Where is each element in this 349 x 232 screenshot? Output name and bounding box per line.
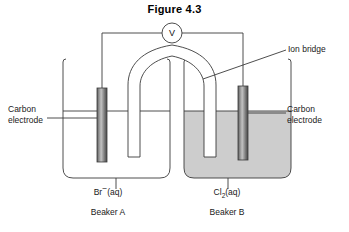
voltmeter-symbol: V [162,28,182,38]
label-solution-a: Br−(aq) [78,187,138,198]
label-carbon-electrode-left-line2: electrode [8,115,43,126]
label-carbon-electrode-right-line1: Carbon [287,104,322,115]
carbon-electrode-right-bar [238,86,248,160]
label-carbon-electrode-left-line1: Carbon [8,104,43,115]
beaker-a [63,59,170,178]
carbon-electrode-left [97,88,107,162]
beaker-a-wall [63,59,170,178]
label-carbon-electrode-left: Carbon electrode [8,104,43,126]
beaker-b [184,59,291,178]
label-carbon-electrode-right: Carbon electrode [287,104,322,126]
leader-ion-bridge [203,50,286,79]
carbon-electrode-left-bar [97,88,107,162]
solution-a-state: (aq) [107,187,122,197]
label-beaker-b: Beaker B [193,207,261,218]
figure-container: Figure 4.3 [0,0,349,232]
solution-b-formula: Cl [214,187,222,197]
solution-a-formula: Br [94,187,103,197]
label-carbon-electrode-right-line2: electrode [287,115,322,126]
label-solution-b: Cl2(aq) [196,187,258,201]
beaker-b-liquid-fill [184,111,291,178]
label-ion-bridge: Ion bridge [288,44,326,55]
carbon-electrode-right [238,86,248,160]
label-beaker-a: Beaker A [74,207,142,218]
solution-b-state: (aq) [225,187,240,197]
